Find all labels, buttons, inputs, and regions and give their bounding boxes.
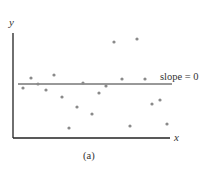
data-point — [158, 98, 161, 101]
y-axis-label: y — [8, 16, 14, 28]
data-point — [143, 77, 146, 80]
data-point — [97, 91, 100, 94]
axes — [13, 33, 170, 138]
data-point — [165, 122, 168, 125]
scatter-plot: y x slope = 0 (a) — [0, 0, 206, 174]
x-axis-label: x — [173, 131, 179, 143]
data-point — [36, 82, 39, 85]
data-point — [120, 77, 123, 80]
data-point — [67, 126, 70, 129]
slope-annotation: slope = 0 — [160, 71, 199, 82]
data-point — [150, 102, 153, 105]
data-point — [44, 88, 47, 91]
data-point — [90, 112, 93, 115]
data-point — [60, 95, 63, 98]
data-point — [104, 84, 107, 87]
data-point — [52, 73, 55, 76]
data-point — [81, 81, 84, 84]
data-point — [135, 37, 138, 40]
data-point — [21, 86, 24, 89]
data-point — [128, 124, 131, 127]
caption: (a) — [83, 150, 95, 162]
data-point — [75, 105, 78, 108]
data-point — [112, 40, 115, 43]
data-point — [29, 76, 32, 79]
